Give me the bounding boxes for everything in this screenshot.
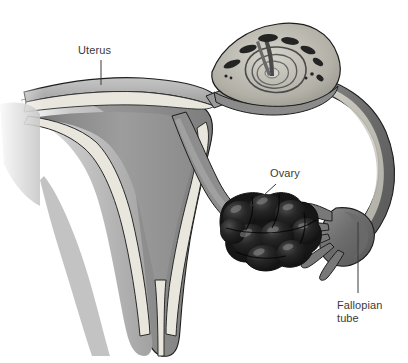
ovary [220,193,321,271]
label-fallopian-line1: Fallopian [337,299,383,311]
left-edge-fade [0,88,44,218]
label-fallopian-tube: Fallopiantube [337,299,383,325]
label-ovary: Ovary [270,167,300,180]
ampulla-cross-section [212,23,340,115]
anatomy-figure: Uterus Ovary Fallopiantube [0,0,408,363]
label-uterus: Uterus [78,44,111,57]
label-fallopian-line2: tube [337,312,359,324]
